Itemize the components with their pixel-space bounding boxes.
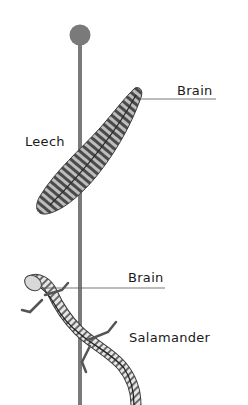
- leech-brain-label: Brain: [177, 83, 213, 98]
- salamander-brain-label: Brain: [128, 270, 164, 285]
- pole: [70, 25, 91, 405]
- leech-illustration: [37, 88, 142, 214]
- salamander-label: Salamander: [129, 330, 210, 345]
- leech-label: Leech: [25, 134, 65, 149]
- diagram-canvas: [0, 0, 248, 405]
